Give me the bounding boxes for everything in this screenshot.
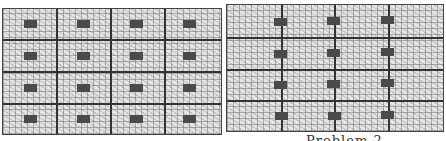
dark-block — [183, 20, 196, 28]
dark-block — [77, 84, 90, 92]
dark-block — [77, 115, 90, 123]
dark-block — [274, 50, 287, 58]
dark-block — [381, 48, 394, 56]
grid-line-horizontal — [227, 37, 443, 39]
dark-block — [381, 16, 394, 24]
dark-block — [381, 111, 394, 119]
dark-block — [130, 52, 143, 60]
grid-line-horizontal — [3, 103, 221, 105]
dark-block — [183, 115, 196, 123]
dark-block — [77, 20, 90, 28]
dark-block — [327, 80, 340, 88]
dark-block — [24, 84, 37, 92]
dark-block — [130, 84, 143, 92]
dark-block — [183, 84, 196, 92]
dark-block — [327, 49, 340, 57]
dark-block — [275, 112, 288, 120]
dark-block — [24, 52, 37, 60]
figure-caption: Problem 2 — [306, 133, 383, 141]
right-grid-panel — [226, 4, 444, 132]
grid-line-horizontal — [227, 100, 443, 102]
dark-block — [274, 18, 287, 26]
grid-line-horizontal — [3, 71, 221, 73]
grid-line-horizontal — [227, 69, 443, 71]
dark-block — [381, 79, 394, 87]
grid-line-horizontal — [3, 39, 221, 41]
dark-block — [130, 20, 143, 28]
dark-block — [24, 20, 37, 28]
dark-block — [77, 52, 90, 60]
dark-block — [328, 112, 341, 120]
dark-block — [24, 115, 37, 123]
dark-block — [327, 17, 340, 25]
dark-block — [130, 115, 143, 123]
left-grid-panel — [2, 8, 222, 135]
dark-block — [274, 81, 287, 89]
dark-block — [183, 52, 196, 60]
